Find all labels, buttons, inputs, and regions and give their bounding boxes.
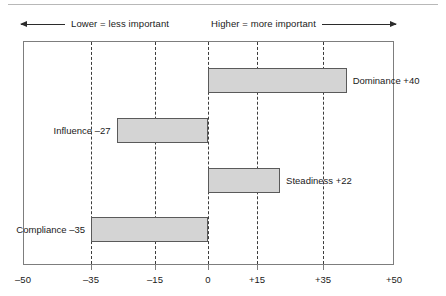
axis-tick-0 [208, 265, 209, 270]
axis-label-0: 0 [205, 275, 210, 285]
axis-label--15: –15 [147, 275, 163, 285]
legend-higher-label: Higher = more important [211, 19, 316, 29]
axis-label-15: +15 [249, 275, 265, 285]
axis-label-35: +35 [315, 275, 331, 285]
bar-dominance [208, 68, 347, 93]
bar-label-compliance: Compliance –35 [0, 225, 85, 235]
direction-legend: Lower = less important Higher = more imp… [0, 14, 446, 34]
axis-tick--15 [155, 265, 156, 270]
bar-label-influence: Influence –27 [0, 126, 111, 136]
bar-influence [117, 118, 208, 143]
axis-label-50: +50 [386, 275, 402, 285]
legend-higher-group: Higher = more important [211, 14, 396, 34]
axis-tick-15 [257, 265, 258, 270]
axis-label--50: –50 [15, 275, 31, 285]
axis-tick-35 [323, 265, 324, 270]
axis-tick--35 [91, 265, 92, 270]
bar-label-steadiness: Steadiness +22 [286, 176, 352, 186]
bar-compliance [91, 217, 208, 242]
legend-lower-label: Lower = less important [71, 19, 169, 29]
bar-steadiness [208, 168, 280, 193]
arrow-left-icon [21, 24, 65, 25]
top-divider [8, 4, 438, 5]
arrow-right-icon [322, 24, 396, 25]
axis-label--35: –35 [83, 275, 99, 285]
bar-label-dominance: Dominance +40 [353, 76, 420, 86]
legend-lower-group: Lower = less important [21, 14, 169, 34]
